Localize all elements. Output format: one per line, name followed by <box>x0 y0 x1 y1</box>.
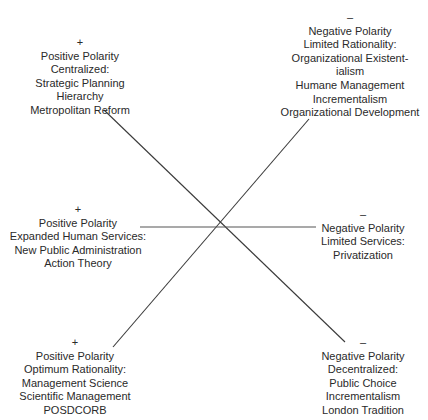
label-line: Humane Management <box>281 79 420 93</box>
label-line: Limited Rationality: <box>281 38 420 52</box>
label-line: Public Choice <box>321 377 404 391</box>
label-line: Management Science <box>19 377 130 391</box>
label-line: Privatization <box>321 249 405 263</box>
label-line: Organizational Existent- <box>281 52 420 66</box>
negative-sign: – <box>321 208 405 222</box>
label-line: Limited Services: <box>321 235 405 249</box>
label-top-right: – Negative Polarity Limited Rationality:… <box>281 11 420 120</box>
label-line: Incrementalism <box>321 390 404 404</box>
label-bottom-right: – Negative Polarity Decentralized: Publi… <box>321 336 404 418</box>
label-bottom-left: + Positive Polarity Optimum Rationality:… <box>19 336 130 418</box>
label-line: London Tradition <box>321 404 404 418</box>
label-line: Positive Polarity <box>30 50 130 64</box>
positive-sign: + <box>19 336 130 350</box>
label-line: Decentralized: <box>321 363 404 377</box>
label-line: POSDCORB <box>19 404 130 418</box>
label-line: Scientific Management <box>19 390 130 404</box>
label-middle-left: + Positive Polarity Expanded Human Servi… <box>10 203 146 271</box>
label-line: ialism <box>281 65 420 79</box>
label-line: Organizational Development <box>281 106 420 120</box>
label-line: Action Theory <box>10 257 146 271</box>
label-line: Optimum Rationality: <box>19 363 130 377</box>
label-line: Expanded Human Services: <box>10 230 146 244</box>
label-line: Incrementalism <box>281 93 420 107</box>
label-line: Hierarchy <box>30 90 130 104</box>
label-line: Positive Polarity <box>10 217 146 231</box>
label-line: Metropolitan Reform <box>30 104 130 118</box>
label-line: Centralized: <box>30 63 130 77</box>
label-line: Positive Polarity <box>19 350 130 364</box>
label-line: Strategic Planning <box>30 77 130 91</box>
label-line: Negative Polarity <box>281 25 420 39</box>
label-middle-right: – Negative Polarity Limited Services: Pr… <box>321 208 405 262</box>
negative-sign: – <box>281 11 420 25</box>
label-line: Negative Polarity <box>321 222 405 236</box>
label-line: New Public Administration <box>10 244 146 258</box>
label-top-left: + Positive Polarity Centralized: Strateg… <box>30 36 130 118</box>
positive-sign: + <box>10 203 146 217</box>
label-line: Negative Polarity <box>321 350 404 364</box>
negative-sign: – <box>321 336 404 350</box>
positive-sign: + <box>30 36 130 50</box>
